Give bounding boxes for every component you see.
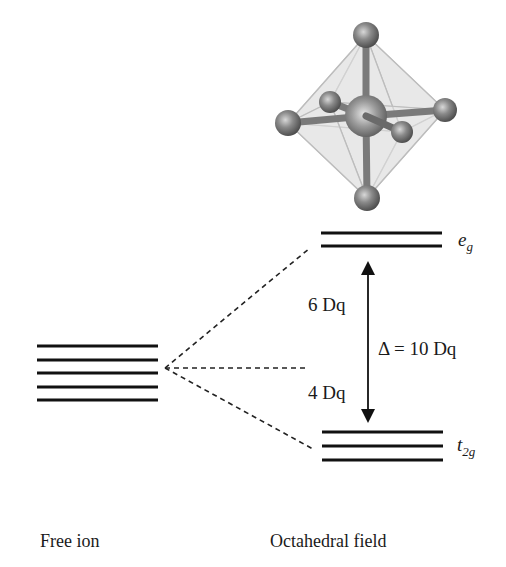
ligand-ball-left: [275, 110, 301, 136]
dashed-line-to-eg: [165, 248, 310, 368]
arrow-head-down-icon: [361, 409, 375, 423]
free-ion-levels: [37, 346, 158, 400]
ligand-ball-right: [433, 98, 457, 122]
splitting-energy-label: Δ = 10 Dq: [378, 338, 457, 359]
octahedral-complex-illustration: [275, 22, 457, 211]
dashed-line-to-t2g: [165, 368, 313, 449]
eg-levels: [321, 233, 442, 246]
splitting-arrow: [361, 261, 375, 423]
lower-shift-label: 4 Dq: [308, 382, 346, 403]
eg-label: eg: [458, 229, 473, 254]
ligand-ball-front-right: [391, 121, 413, 143]
arrow-head-up-icon: [361, 261, 375, 275]
t2g-label: t2g: [457, 434, 476, 459]
t2g-levels: [322, 432, 443, 460]
ligand-ball-back-left: [319, 91, 341, 113]
correlation-lines: [165, 248, 313, 449]
octahedral-field-label: Octahedral field: [270, 531, 386, 551]
ligand-ball-top: [353, 22, 379, 48]
upper-shift-label: 6 Dq: [308, 294, 346, 315]
ligand-ball-bottom: [354, 185, 380, 211]
crystal-field-diagram: eg t2g 6 Dq 4 Dq Δ = 10 Dq Free ion Octa…: [0, 0, 506, 567]
free-ion-label: Free ion: [40, 531, 99, 551]
